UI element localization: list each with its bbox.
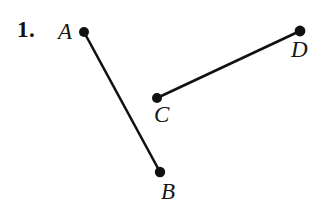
points-group <box>79 26 305 178</box>
segments-group <box>84 31 300 172</box>
point-label-D: D <box>291 38 308 61</box>
geometry-figure: 1. A B C D <box>0 0 332 207</box>
point-label-B: B <box>161 180 175 203</box>
point-dot-A <box>79 27 89 37</box>
problem-number: 1. <box>17 18 35 41</box>
point-dot-D <box>295 26 306 37</box>
point-label-A: A <box>58 20 72 43</box>
point-dot-B <box>155 167 165 177</box>
segment-CD <box>157 31 300 98</box>
segment-AB <box>84 32 160 172</box>
point-label-C: C <box>154 103 169 126</box>
